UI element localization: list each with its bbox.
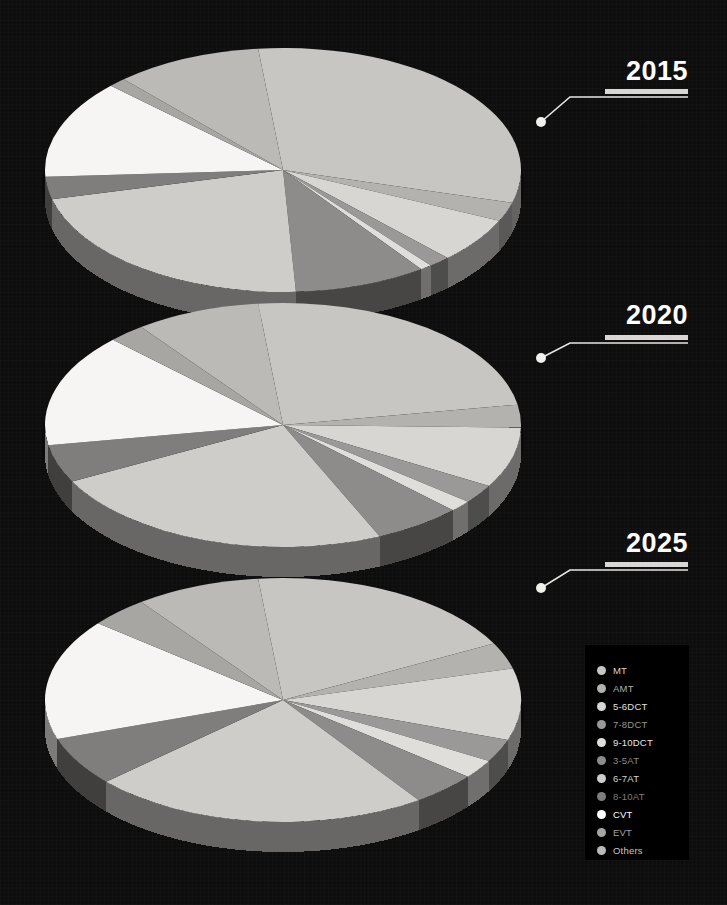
pie-wall-segment <box>311 821 319 852</box>
pie-wall-segment <box>360 814 368 845</box>
pie-wall-segment <box>502 744 505 778</box>
pie-wall-segment <box>86 768 91 801</box>
pie-wall-segment <box>495 752 499 786</box>
pie-wall-segment <box>513 727 515 761</box>
pie-wall-segment <box>519 711 520 745</box>
pie-wall-segment <box>59 742 62 776</box>
pie-wall-segment <box>49 722 51 756</box>
pie-wall-segment <box>57 739 59 772</box>
pie-wall-segment <box>463 777 468 810</box>
pie-wall-segment <box>518 715 519 749</box>
pie-wall-segment <box>319 820 327 851</box>
legend-item-CVT[interactable]: CVT <box>597 805 689 823</box>
pie-wall-segment <box>451 783 457 816</box>
pie-wall-segment <box>476 768 481 801</box>
pie-wall-segment <box>489 760 491 791</box>
pie-wall-segment <box>468 775 471 807</box>
pie-wall-segment <box>278 822 286 852</box>
pie-wall-segment <box>426 795 433 828</box>
pie-wall-segment <box>108 783 114 816</box>
legend-item-Others[interactable]: Others <box>597 841 689 859</box>
pie-wall-segment <box>45 706 46 740</box>
pie-wall-segment <box>457 780 463 813</box>
pie-wall-segment <box>73 757 77 791</box>
pie-wall-segment <box>69 753 73 787</box>
legend-item-EVT[interactable]: EVT <box>597 823 689 841</box>
pie-wall-segment <box>445 786 451 819</box>
legend-label: EVT <box>613 827 632 838</box>
pie-wall-segment <box>368 812 376 844</box>
pie-wall-segment <box>471 772 476 805</box>
legend-label: CVT <box>613 809 633 820</box>
legend-label: 6-7AT <box>613 773 639 784</box>
pie-wall-segment <box>101 778 106 811</box>
pie-wall-segment <box>205 815 213 846</box>
legend-label: MT <box>613 665 627 676</box>
pie-wall-segment <box>344 817 352 848</box>
legend-item-AMT[interactable]: AMT <box>597 679 689 697</box>
pie-wall-segment <box>133 795 140 828</box>
pie-wall-segment <box>213 817 221 848</box>
pie-wall-segment <box>253 821 261 851</box>
pie-wall-segment <box>167 806 174 838</box>
pie-wall-segment <box>286 822 294 852</box>
pie-wall-segment <box>47 714 48 748</box>
pie-wall-segment <box>517 719 518 753</box>
pie-wall-segment <box>48 718 49 752</box>
legend-item-3-5AT[interactable]: 3-5AT <box>597 751 689 769</box>
legend-label: Others <box>613 845 643 856</box>
pie-wall-segment <box>46 710 47 744</box>
pie-wall-segment <box>245 820 253 851</box>
pie-wall-segment <box>405 803 412 835</box>
legend-swatch-icon <box>597 684 606 693</box>
legend-item-8-10AT[interactable]: 8-10AT <box>597 787 689 805</box>
pie-wall-segment <box>55 735 58 769</box>
legend-item-5-6DCT[interactable]: 5-6DCT <box>597 697 689 715</box>
pie-wall-segment <box>383 809 390 841</box>
pie-wall-segment <box>174 809 181 841</box>
chart-legend: MTAMT5-6DCT7-8DCT9-10DCT3-5AT6-7AT8-10AT… <box>585 645 689 860</box>
pie-wall-segment <box>261 821 269 851</box>
pie-wall-segment <box>229 819 237 850</box>
pie-wall-segment <box>328 819 336 850</box>
legend-swatch-icon <box>597 738 606 747</box>
pie-wall-segment <box>433 792 439 825</box>
legend-label: 5-6DCT <box>613 701 647 712</box>
pie-wall-segment <box>390 807 397 839</box>
pie-wall-segment <box>106 782 108 813</box>
pie-wall-segment <box>146 800 153 832</box>
pie-wall-segment <box>237 820 245 851</box>
legend-swatch-icon <box>597 828 606 837</box>
legend-item-7-8DCT[interactable]: 7-8DCT <box>597 715 689 733</box>
pie-wall-segment <box>352 815 360 846</box>
pie-wall-segment <box>77 761 81 795</box>
legend-swatch-icon <box>597 666 606 675</box>
pie-wall-segment <box>419 800 420 830</box>
pie-wall-segment <box>505 740 508 774</box>
legend-label: 7-8DCT <box>613 719 647 730</box>
pie-wall-segment <box>480 765 485 799</box>
legend-label: 8-10AT <box>613 791 645 802</box>
legend-swatch-icon <box>597 756 606 765</box>
pie-wall-segment <box>126 792 132 825</box>
legend-swatch-icon <box>597 720 606 729</box>
legend-swatch-icon <box>597 702 606 711</box>
pie-wall-segment <box>51 727 53 761</box>
legend-item-MT[interactable]: MT <box>597 661 689 679</box>
pie-wall-segment <box>120 789 126 822</box>
legend-item-6-7AT[interactable]: 6-7AT <box>597 769 689 787</box>
pie-wall-segment <box>485 761 489 795</box>
pie-wall-segment <box>90 772 95 805</box>
pie-wall-segment <box>491 756 495 790</box>
pie-wall-segment <box>511 732 513 766</box>
legend-item-9-10DCT[interactable]: 9-10DCT <box>597 733 689 751</box>
pie-wall-segment <box>66 750 70 784</box>
pie-wall-segment <box>53 731 55 765</box>
pie-wall-segment <box>303 821 311 851</box>
pie-wall-segment <box>295 822 303 852</box>
pie-wall-segment <box>508 736 511 770</box>
legend-swatch-icon <box>597 810 606 819</box>
pie-wall-segment <box>221 818 229 849</box>
pie-wall-segment <box>81 765 86 799</box>
pie-wall-segment <box>520 706 521 740</box>
